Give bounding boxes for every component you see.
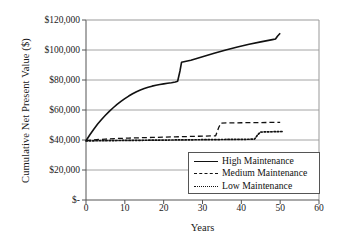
legend-item: Medium Maintenance bbox=[193, 167, 316, 179]
x-tick-label: 40 bbox=[226, 203, 256, 213]
legend-label: Low Maintenance bbox=[222, 180, 292, 192]
legend-swatch-dashed bbox=[193, 168, 219, 178]
x-tick-labels: 0102030405060 bbox=[0, 0, 350, 246]
x-tick-label: 30 bbox=[188, 203, 218, 213]
x-tick-label: 50 bbox=[265, 203, 295, 213]
legend-item: High Maintenance bbox=[193, 155, 316, 167]
legend-label: High Maintenance bbox=[222, 155, 294, 167]
legend-swatch-dotted bbox=[193, 181, 219, 191]
chart-legend: High MaintenanceMedium MaintenanceLow Ma… bbox=[188, 152, 320, 194]
x-tick-label: 20 bbox=[149, 203, 179, 213]
x-axis-title: Years bbox=[86, 222, 319, 233]
chart-container: Cumulative Net Present Value ($) $-$20,0… bbox=[0, 0, 350, 246]
legend-label: Medium Maintenance bbox=[222, 167, 307, 179]
legend-swatch-solid bbox=[193, 156, 219, 166]
x-tick-label: 10 bbox=[110, 203, 140, 213]
x-tick-label: 0 bbox=[71, 203, 101, 213]
legend-item: Low Maintenance bbox=[193, 180, 316, 192]
x-tick-label: 60 bbox=[304, 203, 334, 213]
